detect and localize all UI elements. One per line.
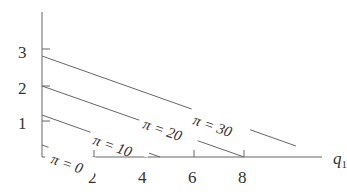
- x-axis-label: q1: [333, 149, 347, 170]
- x-tick-label-8: 8: [238, 168, 247, 187]
- isoprofit-chart: 3 2 1 2 4 6 8 π = 30 π = 20 π = 10 π = 0…: [0, 0, 347, 192]
- y-tick-label-3: 3: [18, 43, 27, 62]
- y-tick-label-2: 2: [18, 79, 27, 98]
- x-tick-label-4: 4: [138, 168, 147, 187]
- y-tick-label-1: 1: [18, 114, 27, 133]
- x-tick-label-6: 6: [188, 168, 197, 187]
- x-axis-label-sub: 1: [342, 158, 347, 170]
